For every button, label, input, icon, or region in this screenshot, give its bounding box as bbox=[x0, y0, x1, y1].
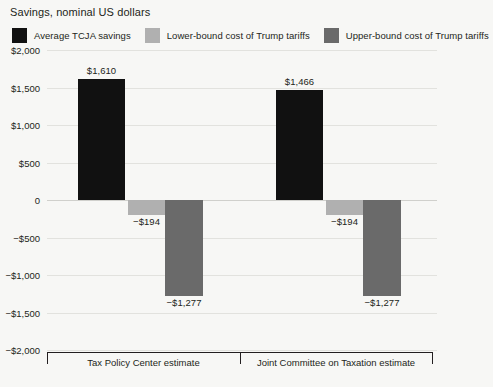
ytick-label-neg2000: −$2,000 bbox=[5, 345, 40, 356]
category-axis-tick-right bbox=[432, 352, 433, 364]
bar-value-g1-upper-bound-cost: −$1,277 bbox=[358, 297, 406, 308]
ytick-label-1500: $1,500 bbox=[11, 82, 40, 93]
bar-g0-upper-bound-cost bbox=[165, 200, 203, 296]
plot-area: $2,000 $1,500 $1,000 $500 0 −$500 −$1,00… bbox=[47, 50, 437, 350]
legend-label-average-tcja-savings: Average TCJA savings bbox=[34, 30, 131, 41]
ytick-label-neg1000: −$1,000 bbox=[5, 270, 40, 281]
gridline-neg1500: −$1,500 bbox=[47, 313, 437, 314]
bar-g1-average-tcja-savings bbox=[276, 90, 323, 200]
legend-label-upper-bound-cost: Upper-bound cost of Trump tariffs bbox=[346, 30, 489, 41]
category-label-joint-committee: Joint Committee on Taxation estimate bbox=[240, 357, 432, 368]
ytick-label-1000: $1,000 bbox=[11, 120, 40, 131]
ytick-label-500: $500 bbox=[19, 157, 40, 168]
bar-value-g0-lower-bound-cost: −$194 bbox=[123, 216, 170, 227]
legend-swatch-light-gray-icon bbox=[145, 28, 160, 43]
bar-g1-upper-bound-cost bbox=[363, 200, 401, 296]
bar-g1-lower-bound-cost bbox=[326, 200, 363, 215]
ytick-label-2000: $2,000 bbox=[11, 45, 40, 56]
legend-item-lower-bound-cost: Lower-bound cost of Trump tariffs bbox=[145, 28, 310, 43]
chart-legend: Average TCJA savings Lower-bound cost of… bbox=[12, 27, 493, 43]
ytick-label-zero: 0 bbox=[35, 195, 40, 206]
bar-value-g0-average-tcja-savings: $1,610 bbox=[78, 65, 125, 76]
bar-g0-average-tcja-savings bbox=[78, 79, 125, 200]
bar-value-g0-upper-bound-cost: −$1,277 bbox=[160, 297, 208, 308]
gridline-2000: $2,000 bbox=[47, 50, 437, 51]
legend-item-upper-bound-cost: Upper-bound cost of Trump tariffs bbox=[324, 28, 489, 43]
legend-swatch-black-icon bbox=[12, 28, 27, 43]
bar-value-g1-average-tcja-savings: $1,466 bbox=[276, 76, 323, 87]
bar-g0-lower-bound-cost bbox=[128, 200, 165, 215]
bar-value-g1-lower-bound-cost: −$194 bbox=[321, 216, 368, 227]
gridline-neg2000: −$2,000 bbox=[47, 350, 437, 351]
category-label-tax-policy-center: Tax Policy Center estimate bbox=[47, 357, 240, 368]
ytick-label-neg500: −$500 bbox=[13, 232, 40, 243]
ytick-label-neg1500: −$1,500 bbox=[5, 307, 40, 318]
legend-label-lower-bound-cost: Lower-bound cost of Trump tariffs bbox=[167, 30, 310, 41]
legend-swatch-dark-gray-icon bbox=[324, 28, 339, 43]
chart-title: Savings, nominal US dollars bbox=[10, 6, 150, 18]
legend-item-average-tcja-savings: Average TCJA savings bbox=[12, 28, 131, 43]
